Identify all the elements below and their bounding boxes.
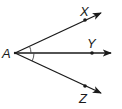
point-A xyxy=(14,52,16,54)
label-A: A xyxy=(1,46,11,61)
ray-AZ xyxy=(15,53,101,93)
angle-arc-YAZ xyxy=(32,53,34,61)
angle-arc-XAY xyxy=(30,46,32,53)
point-Y xyxy=(90,51,94,55)
label-Y: Y xyxy=(87,36,97,51)
label-X: X xyxy=(79,4,90,19)
angle-diagram: A X Y Z xyxy=(0,0,122,109)
label-Z: Z xyxy=(78,91,88,106)
point-Z xyxy=(83,84,87,88)
